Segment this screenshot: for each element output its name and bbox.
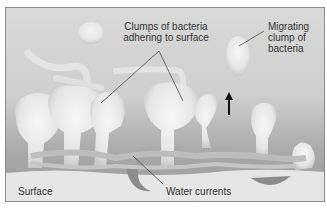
label-migrating-line2: clump of	[268, 32, 309, 43]
label-clumps: Clumps of bacteria adhering to surface	[116, 21, 216, 43]
label-migrating-line1: Migrating	[268, 21, 309, 32]
label-migrating-line3: bacteria	[268, 43, 309, 54]
label-clumps-line1: Clumps of bacteria	[116, 21, 216, 32]
label-migrating: Migrating clump of bacteria	[268, 21, 309, 54]
label-clumps-line2: adhering to surface	[116, 32, 216, 43]
label-water-currents: Water currents	[166, 186, 231, 197]
biofilm-diagram: Clumps of bacteria adhering to surface M…	[5, 7, 325, 202]
label-surface: Surface	[18, 186, 52, 197]
